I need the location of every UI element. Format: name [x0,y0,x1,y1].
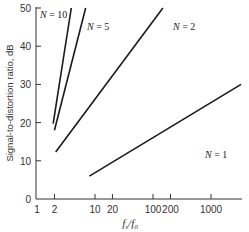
y-tick-label: 20 [20,118,32,129]
y-tick-label: 10 [20,156,32,167]
y-tick-label: 30 [20,79,32,90]
series-line [89,84,241,176]
x-axis-label: fs/f0 [122,217,138,231]
x-tick-label: 10 [89,204,101,215]
series-line [53,8,71,124]
series-label: N = 10 [39,9,67,20]
x-tick-label: 2 [52,204,58,215]
chart: 01020304050 1210201002001000 N = 10N = 5… [0,0,249,232]
x-ticks: 1210201002001000 [34,194,222,215]
y-tick-label: 40 [20,41,32,52]
y-ticks: 01020304050 [20,3,41,205]
series-label: N = 2 [172,21,195,32]
x-tick-label: 20 [107,204,119,215]
series-label: N = 5 [86,21,109,32]
x-tick-label: 100 [145,204,162,215]
y-axis-label: Signal-to-distortion ratio, dB [4,44,15,161]
y-tick-label: 0 [25,194,31,205]
series-line [54,8,85,130]
series-label: N = 1 [204,149,227,160]
x-tick-label: 1000 [200,204,223,215]
x-tick-label: 200 [162,204,179,215]
x-tick-label: 1 [34,204,40,215]
y-tick-label: 50 [20,3,32,14]
